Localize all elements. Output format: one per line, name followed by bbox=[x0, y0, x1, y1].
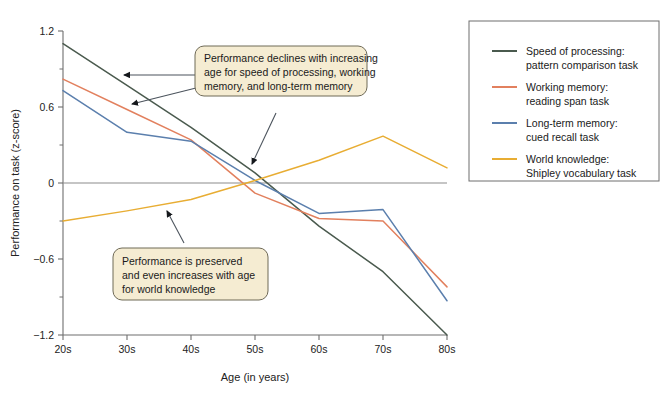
y-tick-label: −0.6 bbox=[33, 253, 54, 265]
legend-label-world-knowledge: World knowledge: bbox=[526, 153, 609, 165]
legend-sublabel-speed-of-processing: pattern comparison task bbox=[526, 59, 639, 71]
x-axis-title: Age (in years) bbox=[221, 371, 289, 383]
x-tick-label: 30s bbox=[119, 343, 136, 355]
decline-callout-line-1: Performance declines with increasing bbox=[204, 52, 378, 64]
x-tick-label: 80s bbox=[439, 343, 456, 355]
line-chart: 1.20.60−0.6−1.2 20s30s40s50s60s70s80s Ag… bbox=[0, 0, 670, 396]
legend-sublabel-world-knowledge: Shipley vocabulary task bbox=[526, 167, 637, 179]
decline-callout-line-2: age for speed of processing, working bbox=[204, 66, 376, 78]
preserved-callout-line-3: for world knowledge bbox=[122, 283, 216, 295]
legend-label-speed-of-processing: Speed of processing: bbox=[526, 45, 625, 57]
y-axis-title: Performance on task (z-score) bbox=[9, 109, 21, 257]
y-tick-label: 0 bbox=[48, 177, 54, 189]
chart-legend: Speed of processing:pattern comparison t… bbox=[469, 21, 659, 181]
decline-callout-line-3: memory, and long-term memory bbox=[204, 80, 353, 92]
legend-sublabel-long-term-memory: cued recall task bbox=[526, 131, 600, 143]
x-tick-label: 50s bbox=[247, 343, 264, 355]
x-tick-label: 60s bbox=[311, 343, 328, 355]
x-tick-label: 40s bbox=[183, 343, 200, 355]
y-tick-label: 0.6 bbox=[39, 101, 54, 113]
y-tick-label: 1.2 bbox=[39, 25, 54, 37]
x-tick-label: 70s bbox=[375, 343, 392, 355]
legend-sublabel-working-memory: reading span task bbox=[526, 95, 610, 107]
legend-label-long-term-memory: Long-term memory: bbox=[526, 117, 618, 129]
chart-figure: 1.20.60−0.6−1.2 20s30s40s50s60s70s80s Ag… bbox=[0, 0, 670, 396]
x-tick-label: 20s bbox=[55, 343, 72, 355]
decline-callout: Performance declines with increasing age… bbox=[195, 46, 378, 96]
preserved-callout: Performance is preserved and even increa… bbox=[113, 248, 268, 300]
y-tick-label: −1.2 bbox=[33, 329, 54, 341]
preserved-callout-line-1: Performance is preserved bbox=[122, 255, 242, 267]
preserved-callout-line-2: and even increases with age bbox=[122, 269, 255, 281]
legend-label-working-memory: Working memory: bbox=[526, 81, 608, 93]
